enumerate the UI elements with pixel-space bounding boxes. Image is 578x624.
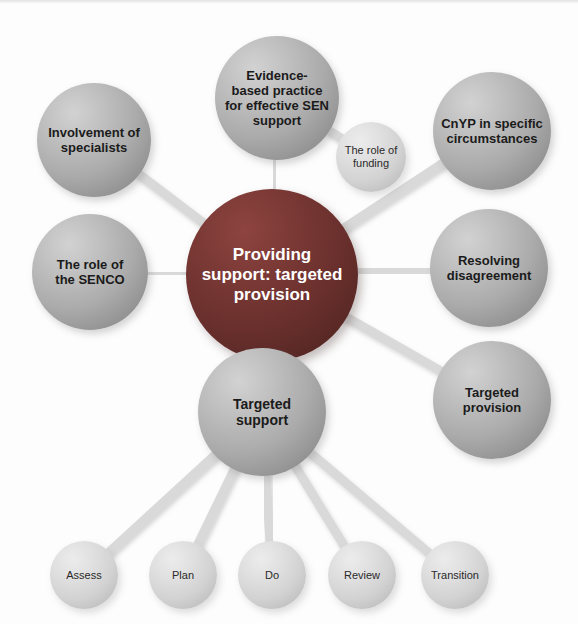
edge-hub-to-senco: [142, 273, 192, 274]
edge-targeted-support-to-do: [266, 470, 271, 547]
node-label-hub: Providing support: targeted provision: [196, 245, 349, 304]
node-targeted-provision[interactable]: Targeted provision: [433, 341, 551, 459]
node-senco[interactable]: The role of the SENCO: [32, 214, 148, 330]
node-review[interactable]: Review: [328, 541, 396, 609]
mind-map-canvas: Providing support: targeted provisionEvi…: [0, 0, 578, 624]
node-label-plan: Plan: [166, 569, 200, 582]
node-cnyp[interactable]: CnYP in specific circumstances: [433, 72, 551, 190]
edge-hub-to-resolving: [352, 270, 436, 273]
node-evidence[interactable]: Evidence- based practice for effective S…: [215, 36, 339, 160]
node-assess[interactable]: Assess: [50, 541, 118, 609]
node-do[interactable]: Do: [238, 541, 306, 609]
node-targeted-support[interactable]: Targeted support: [198, 348, 326, 476]
node-label-resolving: Resolving disagreement: [441, 253, 538, 283]
edge-targeted-support-to-plan: [195, 464, 236, 550]
node-label-funding: The role of funding: [339, 144, 404, 170]
node-label-transition: Transition: [425, 569, 485, 582]
edge-hub-to-targeted-provision: [342, 315, 446, 374]
node-label-targeted-provision: Targeted provision: [457, 385, 528, 415]
node-resolving[interactable]: Resolving disagreement: [430, 209, 548, 327]
edge-targeted-support-to-transition: [306, 449, 433, 557]
node-funding[interactable]: The role of funding: [336, 122, 406, 192]
node-label-cnyp: CnYP in specific circumstances: [435, 116, 549, 146]
node-specialists[interactable]: Involvement of specialists: [37, 83, 151, 197]
node-label-review: Review: [338, 569, 386, 582]
node-plan[interactable]: Plan: [149, 541, 217, 609]
node-label-targeted-support: Targeted support: [227, 396, 297, 428]
node-hub[interactable]: Providing support: targeted provision: [186, 189, 358, 361]
node-label-do: Do: [259, 569, 285, 582]
node-label-evidence: Evidence- based practice for effective S…: [219, 68, 335, 128]
node-label-senco: The role of the SENCO: [49, 257, 130, 287]
node-label-specialists: Involvement of specialists: [42, 125, 146, 155]
node-label-assess: Assess: [60, 569, 107, 582]
edge-hub-to-specialists: [135, 171, 209, 227]
node-transition[interactable]: Transition: [421, 541, 489, 609]
